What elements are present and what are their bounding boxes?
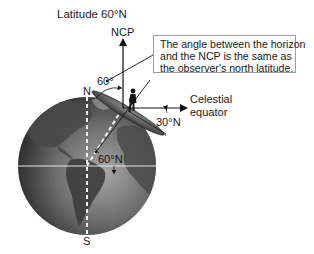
horizon-ncp-angle-label: 60° <box>97 76 114 87</box>
diagram-title: Latitude 60°N <box>57 9 127 21</box>
callout-line: and the NCP is the same as <box>160 50 291 62</box>
celestial-equator-label-line2: equator <box>190 107 227 118</box>
equator-angle-label: 30°N <box>156 117 181 128</box>
callout-line: the observer's north latitude. <box>160 62 291 74</box>
celestial-equator-label-line1: Celestial <box>190 94 232 105</box>
callout-leader-line <box>107 55 153 81</box>
callout-line: The angle between the horizon <box>160 38 291 50</box>
north-pole-label: N <box>83 86 91 97</box>
explanation-callout-box: The angle between the horizon and the NC… <box>153 35 296 73</box>
observer-latitude-label: 60°N <box>98 154 123 165</box>
ncp-label: NCP <box>111 27 134 38</box>
south-pole-label: S <box>83 236 90 247</box>
